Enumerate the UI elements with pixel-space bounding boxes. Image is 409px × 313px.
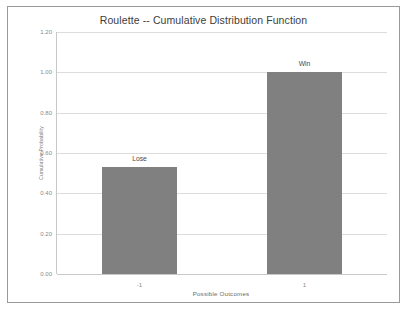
- x-axis-title: Possible Outcomes: [56, 290, 386, 297]
- bar[interactable]: [102, 167, 176, 274]
- y-tick-label: 0.20: [40, 231, 52, 237]
- chart-frame: Roulette -- Cumulative Distribution Func…: [7, 6, 400, 303]
- x-tick-label: -1: [137, 281, 143, 288]
- gridline: 0.00: [57, 274, 387, 275]
- y-tick-label: 0.00: [40, 271, 52, 277]
- chart-title: Roulette -- Cumulative Distribution Func…: [8, 14, 399, 26]
- bar-value-label: Lose: [132, 155, 147, 162]
- y-tick-label: 0.40: [40, 190, 52, 196]
- y-tick-label: 1.20: [40, 29, 52, 35]
- plot-area: 0.000.200.400.600.801.001.20Lose-1Win1: [56, 32, 387, 274]
- y-tick-label: 0.80: [40, 110, 52, 116]
- y-tick-label: 1.00: [40, 69, 52, 75]
- y-axis-title: Cumulative Probability: [38, 126, 44, 180]
- bar[interactable]: [267, 72, 341, 274]
- gridline: 1.20: [57, 32, 387, 33]
- x-tick-label: 1: [303, 281, 306, 288]
- bar-value-label: Win: [299, 60, 311, 67]
